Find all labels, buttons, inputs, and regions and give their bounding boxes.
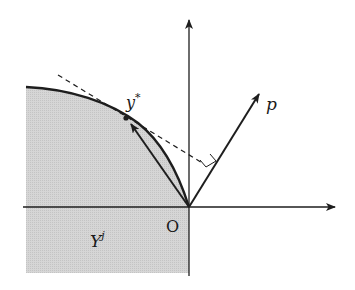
- right-angle-marker: [200, 154, 216, 167]
- optimum-point: [123, 115, 128, 120]
- production-set-region: [26, 87, 189, 273]
- diagram-canvas: y* p O Yj: [0, 0, 355, 290]
- optimum-label: y*: [125, 91, 141, 112]
- price-vector-arrow: [189, 94, 259, 207]
- origin-label: O: [166, 217, 179, 236]
- price-vector-label: p: [266, 94, 277, 114]
